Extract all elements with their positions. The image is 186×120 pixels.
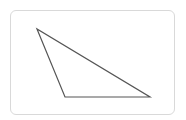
triangle-diagram — [0, 0, 186, 120]
triangle-shape — [37, 29, 150, 97]
